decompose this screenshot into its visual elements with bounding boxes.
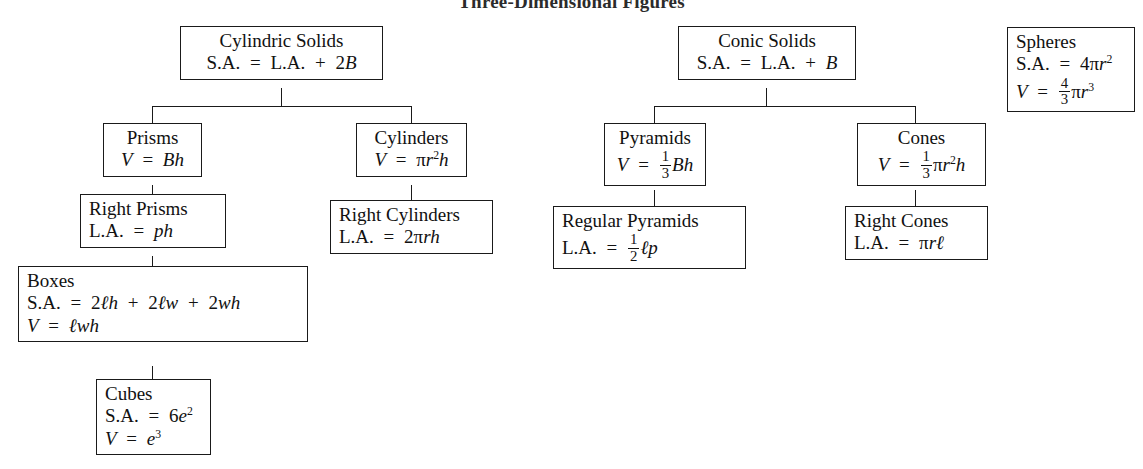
node-formula-sa: S.A. = 4πr2 bbox=[1016, 53, 1126, 75]
connector bbox=[915, 190, 916, 206]
fraction-one-third: 13 bbox=[660, 149, 671, 180]
connector bbox=[411, 185, 412, 200]
node-title: Cylindric Solids bbox=[189, 30, 374, 52]
node-title: Spheres bbox=[1016, 31, 1126, 53]
node-formula-v: V = e3 bbox=[105, 428, 202, 450]
node-formula-sa: S.A. = L.A. + 2B bbox=[189, 52, 374, 74]
node-formula-v: V = 43πr3 bbox=[1016, 76, 1126, 107]
node-formula-v: V = Bh bbox=[112, 149, 193, 171]
node-right-prisms: Right Prisms L.A. = ph bbox=[80, 194, 226, 248]
node-regular-pyramids: Regular Pyramids L.A. = 12ℓp bbox=[553, 206, 746, 269]
node-spheres: Spheres S.A. = 4πr2 V = 43πr3 bbox=[1007, 27, 1135, 112]
connector bbox=[281, 88, 282, 106]
node-prisms: Prisms V = Bh bbox=[103, 123, 202, 177]
connector bbox=[766, 88, 767, 106]
node-formula-la: L.A. = 2πrh bbox=[339, 226, 484, 248]
node-title: Cones bbox=[866, 127, 977, 149]
connector bbox=[152, 106, 412, 107]
node-pyramids: Pyramids V = 13Bh bbox=[604, 123, 706, 186]
node-formula-v: V = πr2h bbox=[365, 149, 458, 171]
node-right-cylinders: Right Cylinders L.A. = 2πrh bbox=[330, 200, 493, 254]
connector bbox=[152, 256, 153, 266]
node-cylinders: Cylinders V = πr2h bbox=[356, 123, 467, 177]
fraction-one-third: 13 bbox=[921, 149, 932, 180]
node-title: Right Cylinders bbox=[339, 204, 484, 226]
connector bbox=[152, 185, 153, 194]
node-title: Pyramids bbox=[613, 127, 697, 149]
connector bbox=[152, 106, 153, 123]
connector bbox=[915, 106, 916, 123]
node-title: Right Cones bbox=[854, 210, 979, 232]
node-title: Cylinders bbox=[365, 127, 458, 149]
connector bbox=[654, 106, 655, 123]
node-cylindric-solids: Cylindric Solids S.A. = L.A. + 2B bbox=[180, 26, 383, 80]
node-title: Prisms bbox=[112, 127, 193, 149]
node-formula-sa: S.A. = 2ℓh + 2ℓw + 2wh bbox=[27, 292, 299, 314]
node-title: Cubes bbox=[105, 383, 202, 405]
node-title: Conic Solids bbox=[687, 30, 847, 52]
node-formula-sa: S.A. = L.A. + B bbox=[687, 52, 847, 74]
node-formula-v: V = 13Bh bbox=[613, 149, 697, 180]
node-title: Regular Pyramids bbox=[562, 210, 737, 232]
node-formula-la: L.A. = πrℓ bbox=[854, 232, 979, 254]
node-formula-la: L.A. = ph bbox=[89, 220, 217, 242]
node-formula-sa: S.A. = 6e2 bbox=[105, 405, 202, 427]
node-formula-v: V = 13πr2h bbox=[866, 149, 977, 180]
node-cubes: Cubes S.A. = 6e2 V = e3 bbox=[96, 379, 211, 455]
connector bbox=[411, 106, 412, 123]
node-formula-la: L.A. = 12ℓp bbox=[562, 232, 737, 263]
node-conic-solids: Conic Solids S.A. = L.A. + B bbox=[678, 26, 856, 80]
page-title: Three-Dimensional Figures bbox=[0, 0, 1143, 13]
connector bbox=[654, 106, 916, 107]
node-boxes: Boxes S.A. = 2ℓh + 2ℓw + 2wh V = ℓwh bbox=[18, 266, 308, 342]
connector bbox=[152, 366, 153, 379]
node-formula-v: V = ℓwh bbox=[27, 315, 299, 337]
node-title: Right Prisms bbox=[89, 198, 217, 220]
diagram-canvas: Three-Dimensional Figures Cylindric Soli… bbox=[0, 0, 1143, 469]
node-title: Boxes bbox=[27, 270, 299, 292]
node-cones: Cones V = 13πr2h bbox=[857, 123, 986, 186]
node-right-cones: Right Cones L.A. = πrℓ bbox=[845, 206, 988, 260]
fraction-four-thirds: 43 bbox=[1059, 76, 1070, 107]
connector bbox=[654, 190, 655, 206]
fraction-one-half: 12 bbox=[628, 232, 639, 263]
